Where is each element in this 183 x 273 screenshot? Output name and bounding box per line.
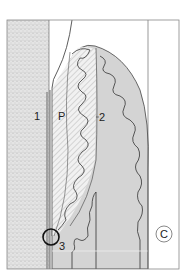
anatomical-diagram: 1 P 2 3 C xyxy=(0,0,183,273)
stippled-region-1 xyxy=(7,20,49,269)
label-c: C xyxy=(160,228,168,240)
label-3: 3 xyxy=(59,240,65,252)
label-p: P xyxy=(58,110,65,122)
label-1: 1 xyxy=(34,110,40,122)
label-2: 2 xyxy=(99,111,105,123)
